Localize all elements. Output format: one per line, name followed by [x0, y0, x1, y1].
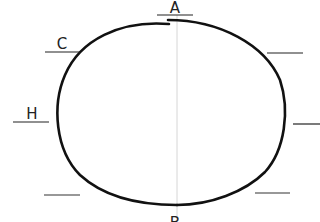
oval-outline-right: [168, 20, 285, 205]
label-b: B: [170, 214, 180, 222]
label-h: H: [26, 105, 37, 123]
oval-outline-left: [57, 23, 177, 205]
oval-diagram: A C H B: [0, 0, 320, 222]
label-c: C: [57, 35, 67, 53]
